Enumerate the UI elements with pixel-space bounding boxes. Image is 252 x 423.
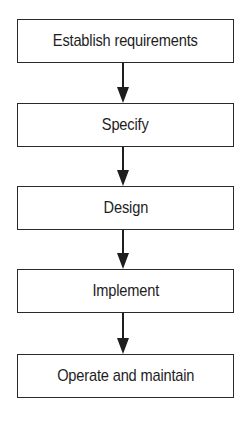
arrow-down-icon (115, 147, 131, 186)
arrow-down-icon (115, 63, 131, 103)
arrow-down-icon (115, 230, 131, 269)
step-label: Specify (102, 115, 149, 135)
arrow-down-icon (115, 313, 131, 354)
step-label: Establish requirements (53, 31, 198, 51)
step-label: Operate and maintain (57, 366, 194, 386)
step-label: Design (103, 198, 147, 218)
step-establish-requirements: Establish requirements (17, 19, 234, 63)
step-label: Implement (92, 281, 159, 301)
step-design: Design (17, 186, 234, 230)
step-implement: Implement (17, 269, 234, 313)
step-specify: Specify (17, 103, 234, 147)
step-operate-and-maintain: Operate and maintain (17, 354, 234, 398)
